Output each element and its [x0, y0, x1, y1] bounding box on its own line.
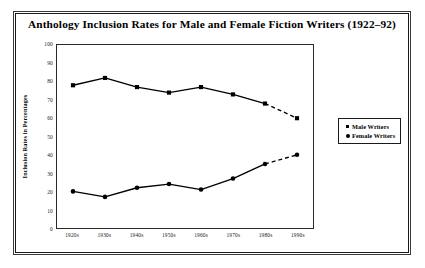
x-axis-ticks: 1920s1930s1940s1950s1960s1970s1980s1990s	[56, 232, 314, 244]
data-point-circle	[231, 176, 236, 181]
series-line-segment	[169, 184, 201, 189]
series-line-segment	[73, 78, 105, 85]
data-point-square	[199, 85, 203, 89]
y-tick-label: 60	[47, 115, 53, 121]
data-point-square	[263, 101, 267, 105]
series-line-segment	[137, 184, 169, 188]
plot-area	[56, 44, 314, 229]
x-tick-label: 1920s	[65, 232, 79, 239]
x-tick-label: 1990s	[291, 232, 305, 239]
data-point-circle	[263, 162, 268, 167]
x-tick-label: 1970s	[226, 232, 240, 239]
figure: Anthology Inclusion Rates for Male and F…	[0, 0, 425, 268]
y-tick-label: 100	[44, 41, 53, 47]
y-axis-label: Inclusion Rates in Percentages	[19, 44, 31, 229]
legend-label-male: Male Writers	[352, 122, 389, 131]
data-point-circle	[295, 153, 300, 158]
square-marker-icon	[343, 125, 352, 129]
y-axis-ticks: 1009080706050403020100	[32, 44, 53, 229]
legend-item-female: Female Writers	[343, 131, 395, 140]
circle-marker-icon	[343, 134, 352, 138]
plot-lines	[57, 45, 313, 228]
series-line-segment	[201, 179, 233, 190]
legend-item-male: Male Writers	[343, 122, 395, 131]
data-point-square	[167, 91, 171, 95]
data-point-circle	[135, 185, 140, 190]
legend-label-female: Female Writers	[352, 131, 395, 140]
series-line-segment	[105, 188, 137, 197]
data-point-square	[135, 85, 139, 89]
data-point-circle	[71, 189, 76, 194]
data-point-square	[295, 116, 299, 120]
series-line-segment	[233, 94, 265, 103]
y-tick-label: 40	[47, 152, 53, 158]
y-tick-label: 50	[47, 134, 53, 140]
chart-title: Anthology Inclusion Rates for Male and F…	[15, 18, 409, 30]
series-line-segment	[73, 191, 105, 196]
x-tick-label: 1940s	[130, 232, 144, 239]
x-tick-label: 1960s	[194, 232, 208, 239]
y-tick-label: 70	[47, 97, 53, 103]
y-tick-label: 0	[50, 226, 53, 232]
data-point-circle	[167, 182, 172, 187]
data-point-circle	[199, 187, 204, 192]
y-tick-label: 10	[47, 208, 53, 214]
series-line-segment	[169, 87, 201, 92]
series-line-segment	[265, 104, 297, 119]
data-point-square	[71, 83, 75, 87]
x-tick-label: 1950s	[162, 232, 176, 239]
x-tick-label: 1980s	[259, 232, 273, 239]
x-tick-label: 1930s	[97, 232, 111, 239]
y-tick-label: 80	[47, 78, 53, 84]
data-point-square	[103, 76, 107, 80]
y-tick-label: 30	[47, 171, 53, 177]
data-point-square	[231, 92, 235, 96]
series-line-segment	[137, 87, 169, 92]
series-line-segment	[105, 78, 137, 87]
series-line-segment	[201, 87, 233, 94]
legend: Male Writers Female Writers	[338, 118, 401, 144]
series-line-segment	[265, 155, 297, 164]
series-line-segment	[233, 164, 265, 179]
data-point-circle	[103, 195, 108, 200]
y-tick-label: 90	[47, 60, 53, 66]
y-tick-label: 20	[47, 189, 53, 195]
